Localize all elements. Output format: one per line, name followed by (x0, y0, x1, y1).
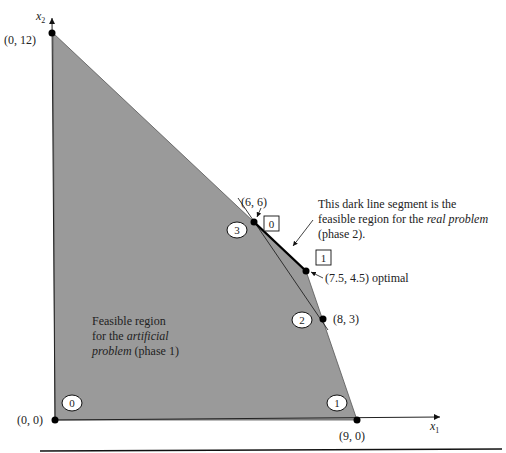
svg-text:for the artificial: for the artificial (92, 329, 169, 343)
label-6-6: (6, 6) (241, 195, 267, 209)
arrow-6-6 (257, 208, 261, 217)
vertex-dot-8-3 (320, 316, 327, 323)
svg-text:0: 0 (269, 218, 275, 230)
x2-axis-label: x2 (35, 9, 45, 25)
label-9-0: (9, 0) (339, 429, 365, 443)
circled-iteration-0: 0 (62, 395, 82, 411)
svg-text:problem (phase 1): problem (phase 1) (91, 344, 179, 358)
svg-text:This dark line segment is the: This dark line segment is the (318, 197, 456, 211)
svg-text:(phase 2).: (phase 2). (318, 227, 365, 241)
two-phase-diagram: x2 x1 (0, 12) (0, 0) (9, 0) (6, 6) (8, 3… (0, 0, 506, 453)
x1-axis-label: x1 (429, 419, 439, 435)
svg-text:1: 1 (321, 252, 327, 264)
vertex-dot-6-6 (251, 219, 258, 226)
vertex-dot-optimal (303, 268, 310, 275)
boxed-iteration-0: 0 (264, 216, 279, 231)
vertex-dot-9-0 (354, 417, 361, 424)
circled-iteration-1: 1 (327, 395, 347, 411)
svg-text:2: 2 (299, 314, 305, 326)
label-0-12: (0, 12) (4, 33, 36, 47)
arrow-real-segment (293, 220, 313, 246)
boxed-iteration-1: 1 (316, 250, 331, 265)
real-problem-annotation: This dark line segment is the feasible r… (318, 197, 488, 241)
vertex-dot-0-12 (49, 30, 56, 37)
bottom-rule (40, 449, 502, 451)
svg-text:0: 0 (69, 397, 75, 409)
circled-iteration-3: 3 (227, 222, 247, 238)
arrow-optimal (311, 272, 323, 278)
label-optimal: (7.5, 4.5) optimal (325, 271, 409, 285)
label-origin: (0, 0) (17, 413, 43, 427)
label-8-3: (8, 3) (333, 312, 359, 326)
svg-text:1: 1 (334, 397, 340, 409)
svg-text:feasible region for the real p: feasible region for the real problem (318, 212, 488, 226)
circled-iteration-2: 2 (292, 312, 312, 328)
vertex-dot-origin (52, 417, 59, 424)
svg-text:3: 3 (234, 224, 240, 236)
svg-text:Feasible region: Feasible region (92, 314, 166, 328)
artificial-feasible-region (53, 33, 357, 420)
